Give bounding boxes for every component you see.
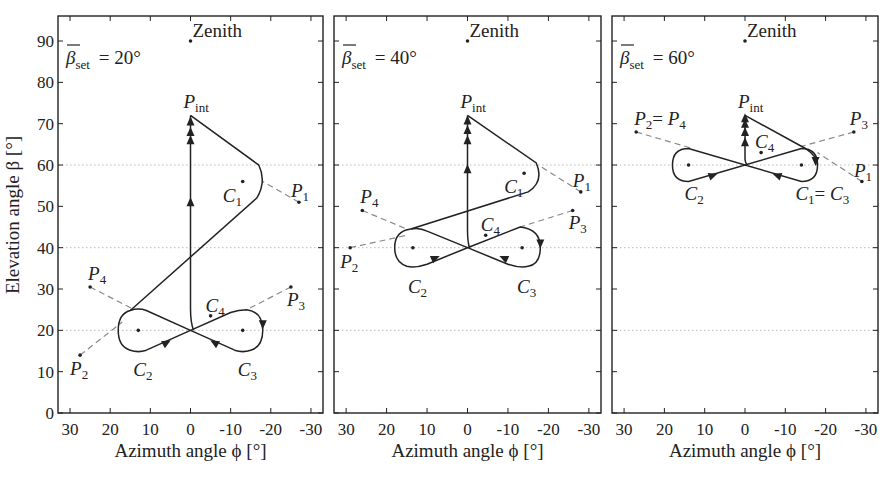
dashed-line [636,132,692,149]
arrow-icon [771,170,782,181]
p4-label: P4 [359,186,379,210]
x-tick-label: -20 [814,420,837,439]
c3-label: C3 [238,359,257,383]
y-tick-label: 0 [46,404,55,423]
c2-label: C2 [133,359,152,383]
dashed-line [80,322,122,355]
y-tick-label: 20 [37,321,54,340]
x-axis-label: Azimuth angle ϕ [°] [391,440,543,461]
y-tick-label: 50 [37,197,54,216]
c4-label: C4 [481,214,501,238]
p3-label: P3 [849,108,868,132]
p4-point [88,285,92,289]
c1-c3-label: C1= C3 [795,183,849,207]
beta-set-label: βset = 60° [619,47,695,72]
c3-center [241,329,245,333]
x-tick-label: -10 [774,420,797,439]
c1-label: C1 [504,176,523,200]
y-tick-label: 40 [37,239,54,258]
arrow-up-icon [187,127,195,136]
panel-1: 3020100-10-20-30Azimuth angle ϕ [°]βset … [58,16,323,461]
x-tick-label: 30 [338,420,355,439]
x-tick-label: 30 [616,420,633,439]
c1-center [522,171,526,175]
c3-label: C3 [517,276,536,300]
x-tick-label: -30 [855,420,878,439]
arrow-up-icon [464,125,472,134]
y-tick-label: 30 [37,280,54,299]
x-tick-label: 20 [378,420,395,439]
zenith-label: Zenith [747,20,797,41]
p3-point [852,130,856,134]
arrow-up-icon [187,135,195,144]
dashed-line [362,210,407,229]
x-tick-label: -10 [497,420,520,439]
y-tick-label: 70 [37,115,54,134]
beta-set-label: βset = 40° [341,47,417,72]
p2-label: P2 [339,251,358,275]
p3-label: P3 [286,289,305,313]
arrow-down-icon [259,320,267,329]
arrow-up-icon [741,113,749,122]
c2-center [137,329,141,333]
y-tick-label: 90 [37,32,54,51]
dashed-line [801,132,853,146]
plot-frame [612,16,878,413]
p1-label: P1 [290,180,309,204]
x-tick-label: -30 [300,420,323,439]
zenith-label: Zenith [470,20,520,41]
c2-label: C2 [408,276,427,300]
x-tick-label: -30 [578,420,601,439]
c4-label: C4 [206,295,226,319]
x-tick-label: 0 [741,420,750,439]
panel-3: 3020100-10-20-30Azimuth angle ϕ [°]βset … [612,16,878,461]
x-tick-label: 0 [186,420,195,439]
c1-path [411,115,539,229]
x-tick-label: 20 [656,420,673,439]
p1-label: P1 [572,170,591,194]
p2-point [348,246,352,250]
p4-label: P4 [87,263,107,287]
figure-canvas: Elevation angle β [°]0102030405060708090… [0,0,889,483]
p2-p4-label: P2= P4 [633,108,686,132]
dashed-line [247,287,291,310]
c2-center [411,246,415,250]
x-tick-label: -10 [219,420,242,439]
vertical-path [191,115,194,330]
p2-point [78,353,82,357]
arrow-up-icon [187,197,195,206]
p3-label: P3 [568,212,587,236]
p2-label: P2 [69,358,88,382]
y-axis-label: Elevation angle β [°] [2,136,23,294]
arrow-up-icon [741,127,749,136]
p-int-label: Pint [737,91,764,115]
x-tick-label: 10 [419,420,436,439]
dashed-line [350,235,407,247]
p1-label: P1 [853,160,872,184]
p4-point [361,209,365,213]
x-tick-label: -20 [537,420,560,439]
x-tick-label: 10 [142,420,159,439]
y-tick-label: 10 [37,363,54,382]
c1-c3-center [800,163,804,167]
x-tick-label: 30 [62,420,79,439]
c1-path [130,115,262,310]
p-int-label: Pint [183,91,210,115]
x-tick-label: 10 [696,420,713,439]
c2-label: C2 [685,183,704,207]
c1-label: C1 [223,185,242,209]
zenith-label: Zenith [193,20,243,41]
beta-set-label: βset = 20° [65,47,141,72]
panel-2: 3020100-10-20-30Azimuth angle ϕ [°]βset … [334,16,601,461]
y-tick-label: 60 [37,156,54,175]
x-tick-label: 0 [463,420,472,439]
arrow-up-icon [464,135,472,144]
c3-center [520,246,524,250]
p-int-label: Pint [460,91,487,115]
vertical-path [468,115,470,247]
x-axis-label: Azimuth angle ϕ [°] [669,440,821,461]
dashed-line [90,287,134,310]
arrow-up-icon [741,137,749,146]
c1-center [241,180,245,184]
c2-center [687,163,691,167]
